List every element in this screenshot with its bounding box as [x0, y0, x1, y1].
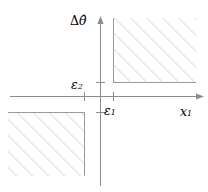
- delta-symbol: Δ: [70, 13, 79, 28]
- lower-left-region-fill: [8, 112, 84, 176]
- epsilon-1-symbol: ε: [104, 103, 111, 118]
- y-axis-label: Δθ̂: [70, 10, 87, 29]
- epsilon-1-label: ε1: [104, 100, 116, 119]
- theta-hat-symbol: θ̂: [79, 13, 87, 28]
- epsilon-2-subscript: 2: [78, 82, 83, 91]
- x-axis-arrow-icon: [196, 93, 204, 99]
- upper-right-hatched-region: [113, 18, 196, 83]
- lower-left-hatched-region: [8, 112, 85, 176]
- x-axis: [10, 93, 204, 99]
- x-subscript: 1: [187, 109, 192, 118]
- diagram-svg: [0, 0, 208, 192]
- x-symbol: x: [180, 104, 187, 119]
- figure-canvas: Δθ̂ x1 ε2 ε1: [0, 0, 208, 192]
- epsilon-2-symbol: ε: [71, 77, 78, 92]
- y-axis-arrow-icon: [97, 16, 103, 24]
- epsilon-2-label: ε2: [71, 74, 83, 93]
- upper-right-region-fill: [113, 18, 196, 82]
- x-axis-label: x1: [180, 101, 192, 120]
- epsilon-1-subscript: 1: [111, 108, 116, 117]
- y-axis: [97, 16, 103, 186]
